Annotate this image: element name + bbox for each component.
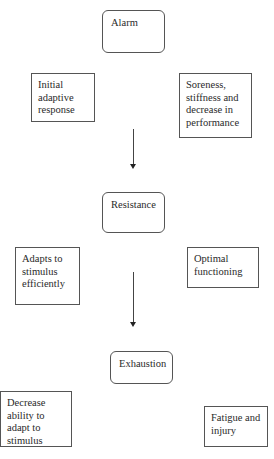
resistance-stage-label: Resistance [111, 199, 156, 210]
alarm-stage-label: Alarm [111, 17, 138, 28]
exhaustion-stage-label: Exhaustion [119, 358, 166, 369]
resistance-left-note: Adapts to stimulus efficiently [15, 247, 80, 305]
note-line: Adapts to [22, 253, 73, 266]
note-line: injury [211, 425, 261, 438]
note-line: adaptive [38, 92, 88, 105]
arrow-down-icon [133, 129, 134, 167]
note-line: adapt to [7, 422, 65, 435]
exhaustion-left-note: Decrease ability to adapt to stimulus [0, 391, 72, 447]
note-line: Fatigue and [211, 412, 261, 425]
note-line: Soreness, [186, 79, 245, 92]
note-line: response [38, 104, 88, 117]
note-line: Optimal [194, 253, 252, 266]
note-line: stimulus [7, 435, 65, 448]
exhaustion-stage-box: Exhaustion [110, 351, 173, 384]
note-line: Initial [38, 79, 88, 92]
exhaustion-right-note: Fatigue and injury [204, 406, 268, 447]
note-line: efficiently [22, 278, 73, 291]
resistance-stage-box: Resistance [102, 192, 165, 233]
note-line: functioning [194, 266, 252, 279]
note-line: Decrease [7, 397, 65, 410]
alarm-left-note: Initial adaptive response [31, 73, 95, 122]
note-line: stimulus [22, 266, 73, 279]
resistance-right-note: Optimal functioning [187, 247, 259, 288]
note-line: performance [186, 117, 245, 130]
arrow-down-icon [133, 272, 134, 325]
alarm-stage-box: Alarm [102, 10, 165, 53]
note-line: decrease in [186, 104, 245, 117]
note-line: ability to [7, 410, 65, 423]
note-line: stiffness and [186, 92, 245, 105]
alarm-right-note: Soreness, stiffness and decrease in perf… [179, 73, 252, 138]
